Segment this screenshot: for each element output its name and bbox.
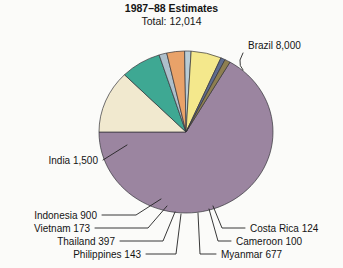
leader-line-myanmar	[198, 213, 216, 254]
slice-label-cameroon: Cameroon 100	[236, 236, 303, 247]
slice-label-vietnam: Vietnam 173	[34, 223, 90, 234]
slice-label-thailand: Thailand 397	[57, 236, 115, 247]
slice-label-india: India 1,500	[49, 155, 99, 166]
slice-label-brazil: Brazil 8,000	[248, 40, 301, 51]
leader-line-philippines	[146, 214, 181, 254]
slice-label-costa-rica: Costa Rica 124	[250, 223, 319, 234]
leader-line-vietnam	[95, 206, 167, 228]
pie-chart-figure: 1987–88 Estimates Total: 12,014 Brazil 8…	[0, 0, 343, 268]
chart-subtitle-total: Total: 12,014	[141, 15, 201, 27]
slice-label-philippines: Philippines 143	[73, 249, 141, 260]
chart-title: 1987–88 Estimates	[125, 2, 219, 14]
pie-chart-svg: 1987–88 Estimates Total: 12,014 Brazil 8…	[0, 0, 343, 268]
leader-line-cameroon	[209, 209, 231, 241]
pie-slices	[99, 51, 273, 213]
leader-line-brazil	[240, 53, 243, 70]
leader-line-thailand	[120, 212, 175, 241]
slice-label-indonesia: Indonesia 900	[34, 210, 97, 221]
leader-line-costa-rica	[213, 206, 245, 228]
slice-label-myanmar: Myanmar 677	[221, 249, 283, 260]
